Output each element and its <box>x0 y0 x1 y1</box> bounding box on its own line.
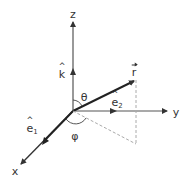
diagram-canvas <box>0 0 186 187</box>
k-hat-arrow-icon <box>70 68 76 75</box>
k-hat-label: k <box>59 69 65 80</box>
spherical-coordinates-diagram: z y x k e1 e2 r θ φ <box>0 0 186 187</box>
e2-hat-label: e2 <box>111 97 122 110</box>
phi-label: φ <box>71 131 78 142</box>
z-axis-label: z <box>70 9 76 20</box>
x-axis-label: x <box>12 166 19 177</box>
y-axis-label: y <box>173 107 180 118</box>
phi-arc <box>66 118 86 124</box>
e1-hat-label: e1 <box>26 123 37 136</box>
r-vector-label: r <box>132 67 137 78</box>
theta-label: θ <box>81 92 88 103</box>
